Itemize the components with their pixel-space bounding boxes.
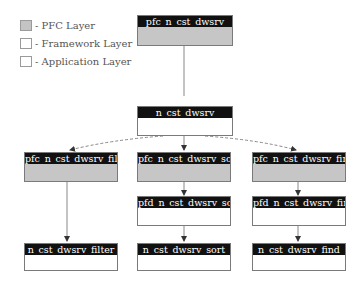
node-title: pfc_n_cst_dwsrv_sort	[138, 153, 230, 164]
node-title: n_cst_dwsrv	[138, 107, 232, 118]
node-title: n_cst_dwsrv_filter	[25, 244, 117, 255]
node-title: pfc_n_cst_dwsrv	[138, 16, 232, 27]
node-pfd-find: pfd_n_cst_dwsrv_find	[252, 196, 346, 226]
node-title: pfd_n_cst_dwsrv_find	[253, 197, 345, 208]
node-n-cst-dwsrv: n_cst_dwsrv	[137, 106, 233, 136]
node-pfc-n-cst-dwsrv: pfc_n_cst_dwsrv	[137, 15, 233, 46]
node-title: pfd_n_cst_dwsrv_sort	[138, 197, 230, 208]
node-title: n_cst_dwsrv_sort	[138, 244, 230, 255]
node-app-sort: n_cst_dwsrv_sort	[137, 243, 231, 271]
node-pfc-sort: pfc_n_cst_dwsrv_sort	[137, 152, 231, 182]
node-title: pfc_n_cst_dwsrv_find	[253, 153, 345, 164]
node-title: n_cst_dwsrv_find	[253, 244, 345, 255]
node-app-filter: n_cst_dwsrv_filter	[24, 243, 118, 271]
node-pfc-filter: pfc_n_cst_dwsrv_filter	[24, 152, 118, 182]
node-app-find: n_cst_dwsrv_find	[252, 243, 346, 271]
node-pfd-sort: pfd_n_cst_dwsrv_sort	[137, 196, 231, 226]
node-pfc-find: pfc_n_cst_dwsrv_find	[252, 152, 346, 182]
node-title: pfc_n_cst_dwsrv_filter	[25, 153, 117, 164]
